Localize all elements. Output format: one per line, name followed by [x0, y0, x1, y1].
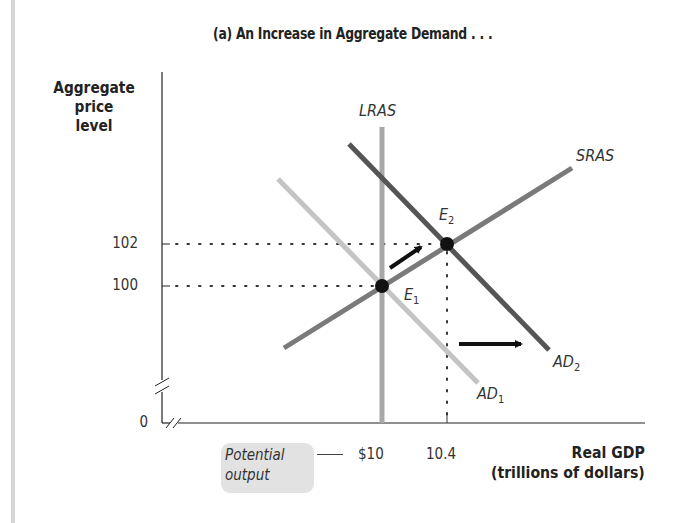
ad2-label-main: AD [553, 352, 574, 371]
potential-output-line: Potential [225, 445, 285, 465]
x-axis-label: Real GDP (trillions of dollars) [491, 443, 645, 483]
potential-output-connector [317, 454, 343, 455]
ad1-label-sub: 1 [498, 393, 504, 406]
potential-output-label: Potential output [225, 445, 285, 485]
e2-label-sub: 2 [448, 214, 454, 227]
y-tick-label-100: 100 [102, 276, 138, 294]
y-axis [155, 72, 169, 423]
e1-label-sub: 1 [413, 294, 419, 307]
e1-label: E1 [404, 285, 419, 307]
e2-label-main: E [439, 205, 448, 224]
ad1-label: AD1 [477, 384, 504, 406]
e2-label: E2 [439, 205, 454, 227]
e1-label-main: E [404, 285, 413, 304]
x-axis [162, 418, 645, 428]
x-axis-label-line: (trillions of dollars) [491, 463, 645, 483]
ad1-label-main: AD [477, 384, 498, 403]
lras-label: LRAS [359, 101, 396, 120]
y-tick-label-102: 102 [102, 234, 138, 252]
y-tick-label-0: 0 [123, 413, 148, 431]
x-tick-label-10: $10 [358, 445, 384, 463]
ad2-label: AD2 [553, 352, 580, 374]
sras-curve [284, 168, 572, 348]
equilibrium-point-e1 [375, 279, 389, 293]
ad2-label-sub: 2 [574, 361, 580, 374]
x-tick-label-104: 10.4 [426, 445, 456, 463]
x-axis-label-line: Real GDP [491, 443, 645, 463]
equilibrium-point-e2 [440, 237, 454, 251]
sras-label: SRAS [576, 146, 614, 165]
potential-output-line: output [225, 465, 285, 485]
